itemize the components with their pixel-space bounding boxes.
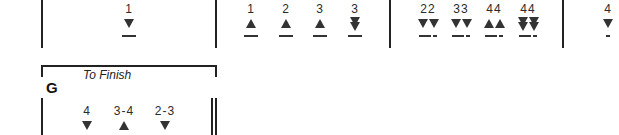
beat-label: 3 [338, 2, 372, 16]
bar-line-3 [389, 0, 391, 48]
dash-mark [533, 35, 537, 37]
beat-label: 44 [511, 2, 545, 16]
bar-line-g-left [41, 98, 43, 135]
beat-label: 1 [112, 2, 146, 16]
section-g-bracket-left [41, 65, 43, 77]
bar-line-4 [562, 0, 564, 48]
bar-line-1 [41, 0, 43, 48]
dash-mark [244, 35, 258, 37]
beat-label: 3 [303, 2, 337, 16]
beat-label: 1 [234, 2, 268, 16]
triangle-down-icon [82, 121, 92, 130]
beat-label: 2 [269, 2, 303, 16]
bar-line-2 [215, 0, 217, 48]
dash-mark [606, 35, 610, 37]
dash-mark [466, 35, 470, 37]
section-g-bracket-right [215, 65, 217, 77]
dash-mark [433, 35, 437, 37]
dash-mark [419, 35, 431, 37]
section-letter: G [46, 79, 58, 96]
triangle-down-icon [462, 19, 472, 28]
section-title: To Finish [83, 68, 131, 82]
dash-mark [348, 35, 362, 37]
dash-mark [279, 35, 293, 37]
beat-label: 4 [70, 104, 104, 118]
beat-label: 3-4 [107, 104, 141, 118]
dash-mark [313, 35, 327, 37]
triangle-down-icon [429, 19, 439, 28]
beat-label: 22 [411, 2, 445, 16]
double-triangle-down-icon [350, 17, 360, 31]
beat-label: 44 [477, 2, 511, 16]
triangle-down-icon [451, 19, 461, 28]
triangle-down-icon [603, 19, 613, 28]
dash-mark [499, 35, 503, 37]
dash-mark [122, 35, 136, 37]
triangle-up-icon [246, 19, 256, 28]
double-bar-line-a [211, 98, 213, 135]
triangle-up-icon [495, 19, 505, 28]
dash-mark [519, 35, 531, 37]
beat-label: 2-3 [148, 104, 182, 118]
triangle-up-icon [484, 19, 494, 28]
triangle-up-icon [315, 19, 325, 28]
triangle-down-icon [124, 19, 134, 28]
triangle-up-icon [119, 121, 129, 130]
dash-mark [452, 35, 464, 37]
triangle-down-icon [418, 19, 428, 28]
triangle-up-icon [281, 19, 291, 28]
section-g-bracket-top [42, 65, 216, 67]
double-bar-line-b [215, 98, 217, 135]
beat-label: 4 [591, 2, 619, 16]
double-triangle-down-icon [518, 17, 528, 31]
double-triangle-down-icon [529, 17, 539, 31]
beat-label: 33 [444, 2, 478, 16]
dash-mark [485, 35, 497, 37]
triangle-down-icon [160, 121, 170, 130]
